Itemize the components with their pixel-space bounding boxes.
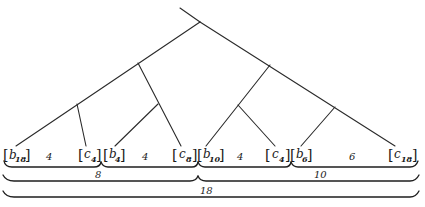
svg-text:]: ]: [412, 147, 417, 163]
edge-c4a: [77, 104, 86, 146]
leaf-b4: [ b 4 ]: [103, 147, 125, 164]
leaf-c8: [ c 8 ]: [172, 147, 197, 164]
svg-text:[: [: [290, 147, 295, 163]
braces-level-2: 8 10: [3, 169, 419, 181]
leaf-c4a: [ c 4 ]: [78, 147, 101, 164]
svg-text:[: [: [172, 147, 177, 163]
edge-internal-c8: [138, 63, 181, 146]
edge-root-stub: [180, 8, 200, 22]
svg-text:]: ]: [120, 147, 125, 163]
svg-text:[: [: [388, 147, 393, 163]
svg-text:c: c: [272, 147, 279, 161]
svg-text:]: ]: [219, 147, 224, 163]
svg-text:c: c: [179, 147, 186, 161]
brace-label-8: 8: [95, 169, 101, 180]
edge-root-left: [16, 22, 200, 146]
svg-text:[: [: [78, 147, 83, 163]
leaf-c18: [ c 18 ]: [388, 147, 417, 164]
svg-text:[: [: [103, 147, 108, 163]
brace-label-18: 18: [200, 185, 213, 196]
svg-text:]: ]: [307, 147, 312, 163]
leaf-b10: [ b 10 ]: [197, 147, 224, 164]
svg-text:18: 18: [401, 154, 413, 164]
edge-b4: [115, 104, 158, 146]
svg-text:[: [: [265, 147, 270, 163]
leaf-b18: [ b 18 ]: [3, 147, 30, 164]
tree-diagram: [ b 18 ] [ c 4 ] [ b 4 ] [ c 8 ] [ b 10 …: [0, 0, 425, 207]
edge-root-right: [200, 22, 395, 146]
brace-label-10: 10: [314, 169, 327, 180]
leaf-b6: [ b 6 ]: [290, 147, 312, 164]
leaf-c4b: [ c 4 ]: [265, 147, 290, 164]
count-b4-c8: 4: [141, 151, 148, 162]
svg-text:[: [: [197, 147, 202, 163]
edge-b6: [301, 107, 335, 146]
tree-edges: [16, 8, 395, 146]
edge-c4b: [238, 105, 275, 146]
brace-10: [198, 175, 419, 181]
svg-text:]: ]: [96, 147, 101, 163]
braces-level-3: 18: [3, 185, 419, 197]
count-b10-c4: 4: [236, 151, 243, 162]
svg-text:]: ]: [25, 147, 30, 163]
count-b18-c4: 4: [45, 151, 52, 162]
svg-text:c: c: [394, 147, 401, 161]
count-b6-c18: 6: [349, 151, 356, 162]
svg-text:c: c: [84, 147, 91, 161]
